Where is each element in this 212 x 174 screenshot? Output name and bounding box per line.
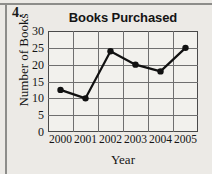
data-point-marker [107, 48, 113, 54]
y-tick-label: 25 [18, 42, 44, 54]
y-tick-label: 5 [18, 109, 44, 121]
worksheet-page: 4. Books Purchased Number of Books 05101… [0, 0, 212, 174]
x-axis-label: Year [48, 152, 198, 168]
y-tick-label: 20 [18, 59, 44, 71]
x-axis-tick-labels: 200020012002200320042005 [48, 134, 198, 150]
y-tick-label: 15 [18, 76, 44, 88]
series-line [61, 48, 186, 99]
y-axis-tick-labels: 051015202530 [14, 31, 44, 132]
chart-title: Books Purchased [48, 11, 198, 25]
page-border-top [0, 3, 212, 5]
data-point-marker [57, 87, 63, 93]
line-series [48, 31, 198, 132]
y-tick-label: 30 [18, 25, 44, 37]
data-point-marker [132, 61, 138, 67]
data-point-marker [182, 45, 188, 51]
page-border-left [5, 3, 7, 174]
data-point-marker [157, 68, 163, 74]
plot-area [48, 31, 198, 132]
y-tick-label: 10 [18, 92, 44, 104]
data-point-marker [82, 95, 88, 101]
y-tick-label: 0 [18, 126, 44, 138]
x-tick-label: 2005 [169, 134, 203, 146]
